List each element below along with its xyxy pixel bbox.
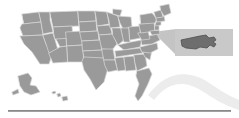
- region-hawaii: [52, 91, 68, 101]
- bottom-rule: [8, 110, 231, 112]
- region-contiguous-us: [20, 4, 171, 101]
- decorative-swoosh: [148, 74, 239, 110]
- map-graphic: [0, 0, 239, 118]
- region-alaska: [12, 73, 40, 95]
- figure-container: [0, 0, 239, 118]
